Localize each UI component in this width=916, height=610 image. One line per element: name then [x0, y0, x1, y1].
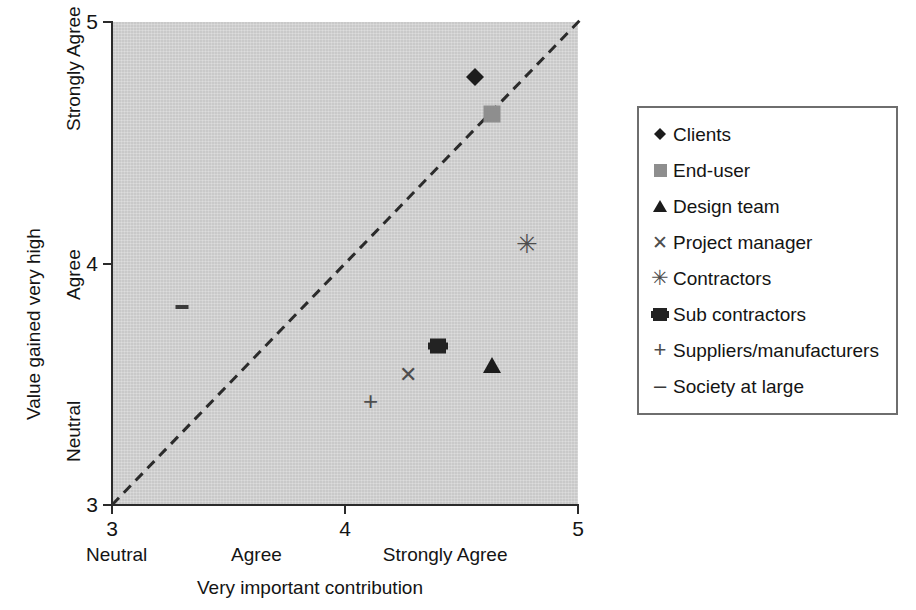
y-axis-tick — [103, 263, 111, 265]
legend-item[interactable]: Clients — [639, 116, 896, 152]
y-axis-tick-label: 3 — [68, 494, 98, 515]
scatter-chart-figure: ✕✳+ 543345Strongly AgreeAgreeNeutralNeut… — [0, 0, 916, 610]
y-axis-category-label: Agree — [64, 249, 83, 300]
y-axis-tick — [103, 504, 111, 506]
legend-item[interactable]: Sub contractors — [639, 296, 896, 332]
x-axis-tick — [577, 506, 579, 514]
legend-item-label: Clients — [673, 125, 731, 144]
legend-item-label: Suppliers/manufacturers — [673, 341, 879, 360]
x-axis-category-label: Agree — [196, 545, 316, 564]
legend-item[interactable]: Design team — [639, 188, 896, 224]
legend-item-label: Sub contractors — [673, 305, 806, 324]
chart-legend: ClientsEnd-userDesign team✕Project manag… — [637, 106, 898, 415]
legend-item[interactable]: +Suppliers/manufacturers — [639, 332, 896, 368]
x-axis-title: Very important contribution — [0, 578, 620, 597]
legend-item-label: End-user — [673, 161, 750, 180]
x-axis-category-label: Neutral — [57, 545, 177, 564]
legend-marker-plus-icon: + — [647, 332, 673, 368]
legend-marker-asterisk-icon: ✳ — [647, 260, 673, 296]
x-axis-tick-label: 5 — [563, 518, 593, 539]
legend-item-label: Contractors — [673, 269, 771, 288]
legend-marker-dash-icon: – — [647, 368, 673, 404]
legend-item[interactable]: ✕Project manager — [639, 224, 896, 260]
legend-marker-filled-hexsq-icon — [647, 296, 673, 332]
legend-marker-triangle-icon — [647, 188, 673, 224]
legend-item-label: Project manager — [673, 233, 812, 252]
reference-line — [112, 22, 578, 505]
legend-item-label: Design team — [673, 197, 780, 216]
y-axis-category-label: Strongly Agree — [64, 6, 83, 131]
x-axis-tick — [111, 506, 113, 514]
y-axis-line — [111, 21, 113, 506]
legend-item[interactable]: End-user — [639, 152, 896, 188]
legend-marker-x-icon: ✕ — [647, 224, 673, 260]
x-axis-tick — [344, 506, 346, 514]
legend-item[interactable]: ✳Contractors — [639, 260, 896, 296]
y-axis-tick — [103, 21, 111, 23]
plot-area: ✕✳+ — [112, 22, 578, 505]
legend-item[interactable]: –Society at large — [639, 368, 896, 404]
legend-item-label: Society at large — [673, 377, 804, 396]
legend-marker-square-icon — [647, 152, 673, 188]
legend-marker-diamond-icon — [647, 116, 673, 152]
y-axis-title: Value gained very high — [24, 228, 43, 420]
x-axis-tick-label: 3 — [97, 518, 127, 539]
y-axis-category-label: Neutral — [64, 400, 83, 461]
x-axis-tick-label: 4 — [330, 518, 360, 539]
x-axis-category-label: Strongly Agree — [383, 545, 503, 564]
